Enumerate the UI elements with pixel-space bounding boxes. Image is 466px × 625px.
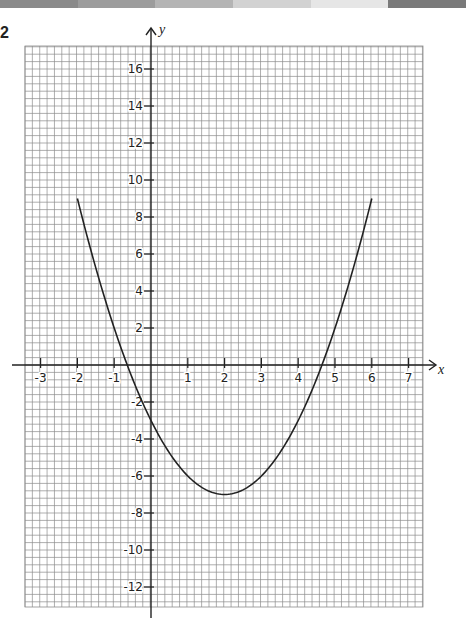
- y-tick-label: -8: [131, 506, 143, 520]
- y-tick-label: -10: [123, 543, 143, 557]
- x-tick-label: 2: [221, 371, 229, 385]
- x-tick-label: 5: [331, 371, 339, 385]
- x-tick-label: 4: [294, 371, 302, 385]
- x-tick-label: 3: [258, 371, 266, 385]
- graph-chart: xy-3-2-11234567161412108642-2-4-6-8-10-1…: [0, 0, 466, 625]
- parabola-curve: [77, 199, 371, 495]
- y-tick-label: 2: [135, 321, 143, 335]
- y-tick-label: -6: [131, 469, 143, 483]
- y-tick-label: 10: [128, 173, 143, 187]
- y-tick-label: 12: [128, 136, 143, 150]
- x-tick-label: -3: [35, 371, 47, 385]
- x-tick-label: 1: [184, 371, 192, 385]
- x-tick-label: 6: [368, 371, 376, 385]
- y-tick-label: 16: [128, 62, 143, 76]
- y-tick-label: -4: [131, 432, 143, 446]
- y-axis-label: y: [157, 22, 166, 37]
- y-tick-label: 14: [128, 99, 143, 113]
- x-axis-label: x: [437, 362, 445, 377]
- x-tick-label: -1: [108, 371, 120, 385]
- y-tick-label: -12: [123, 580, 143, 594]
- x-tick-label: 7: [405, 371, 413, 385]
- y-tick-label: -2: [131, 395, 143, 409]
- y-tick-label: 8: [135, 210, 143, 224]
- y-tick-label: 4: [135, 284, 143, 298]
- x-tick-label: -2: [71, 371, 83, 385]
- y-tick-label: 6: [135, 247, 143, 261]
